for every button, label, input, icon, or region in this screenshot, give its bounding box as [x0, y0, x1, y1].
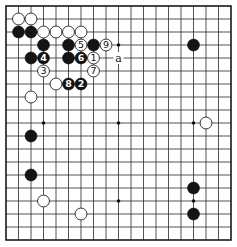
- black-stone-circle: [63, 52, 75, 64]
- white-stone: [200, 117, 212, 129]
- white-stone: [50, 26, 62, 38]
- white-stone: [25, 91, 37, 103]
- black-stone-2: 2: [75, 78, 87, 90]
- black-stone: [188, 39, 200, 51]
- black-stone: [188, 182, 200, 194]
- black-stone-4: 4: [38, 52, 50, 64]
- go-board-diagram: a 594613782: [0, 0, 237, 247]
- black-stone-circle: [63, 39, 75, 51]
- white-stone-circle: [38, 195, 50, 207]
- black-stone-circle: [25, 130, 37, 142]
- white-stone-circle: [75, 26, 87, 38]
- white-stone-circle: [63, 26, 75, 38]
- black-stone-circle: [88, 39, 100, 51]
- black-stone: [63, 52, 75, 64]
- point-labels: a: [114, 52, 124, 65]
- move-number: 2: [78, 78, 85, 89]
- black-stone-circle: [13, 26, 25, 38]
- white-stone-7: 7: [88, 65, 100, 77]
- black-stone: [25, 130, 37, 142]
- move-number: 9: [103, 39, 109, 50]
- white-stone-circle: [200, 117, 212, 129]
- black-stone: [25, 52, 37, 64]
- black-stone-circle: [188, 39, 200, 51]
- star-point: [117, 121, 121, 125]
- star-point: [117, 43, 121, 47]
- move-number: 4: [40, 52, 47, 63]
- white-stone: [50, 78, 62, 90]
- black-stone: [25, 26, 37, 38]
- stones-layer: 594613782: [13, 13, 212, 220]
- white-stone-circle: [25, 13, 37, 25]
- white-stone-circle: [13, 13, 25, 25]
- star-point: [192, 121, 196, 125]
- move-number: 6: [78, 52, 85, 63]
- white-stone: [75, 208, 87, 220]
- white-stone: [38, 26, 50, 38]
- black-stone: [63, 39, 75, 51]
- black-stone-8: 8: [63, 78, 75, 90]
- black-stone-circle: [25, 26, 37, 38]
- white-stone: [25, 13, 37, 25]
- white-stone-circle: [25, 91, 37, 103]
- white-stone-1: 1: [88, 52, 100, 64]
- white-stone: [63, 26, 75, 38]
- move-number: 3: [40, 65, 46, 76]
- move-number: 1: [90, 52, 96, 63]
- white-stone: [38, 195, 50, 207]
- white-stone-9: 9: [100, 39, 112, 51]
- white-stone-circle: [50, 78, 62, 90]
- white-stone-circle: [38, 26, 50, 38]
- white-stone-circle: [75, 208, 87, 220]
- move-number: 5: [78, 39, 84, 50]
- black-stone-circle: [188, 208, 200, 220]
- move-number: 8: [65, 78, 72, 89]
- black-stone-circle: [25, 169, 37, 181]
- star-point: [117, 199, 121, 203]
- black-stone-circle: [25, 52, 37, 64]
- black-stone: [38, 39, 50, 51]
- star-point: [192, 199, 196, 203]
- white-stone-3: 3: [38, 65, 50, 77]
- black-stone-6: 6: [75, 52, 87, 64]
- white-stone-circle: [50, 26, 62, 38]
- black-stone: [13, 26, 25, 38]
- black-stone-circle: [38, 39, 50, 51]
- black-stone: [25, 169, 37, 181]
- star-point: [42, 121, 46, 125]
- white-stone: [13, 13, 25, 25]
- point-label-a: a: [115, 52, 122, 65]
- white-stone: [75, 26, 87, 38]
- black-stone: [88, 39, 100, 51]
- black-stone: [188, 208, 200, 220]
- black-stone-circle: [188, 182, 200, 194]
- white-stone-5: 5: [75, 39, 87, 51]
- move-number: 7: [90, 65, 96, 76]
